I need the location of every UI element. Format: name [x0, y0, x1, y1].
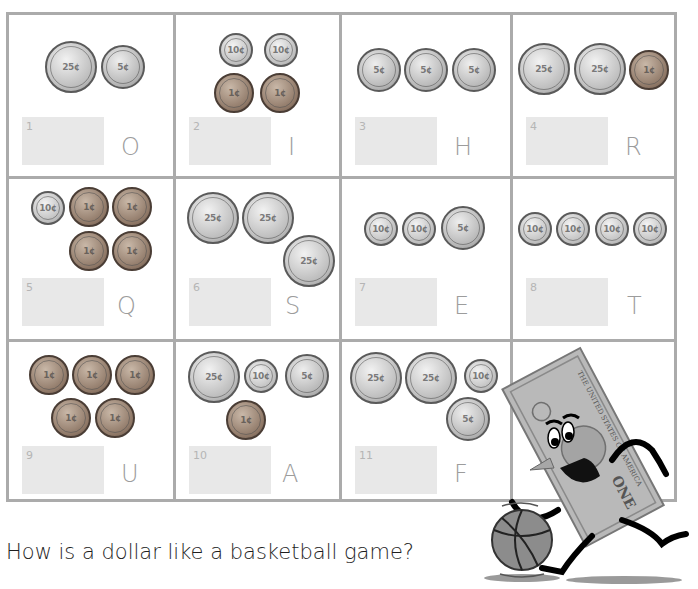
answer-box-3[interactable]: 3: [355, 117, 437, 165]
code-letter-2: I: [288, 133, 295, 161]
riddle-question: How is a dollar like a basketball game?: [6, 540, 414, 564]
answer-box-1[interactable]: 1: [22, 117, 104, 165]
penny-coin-icon: 1¢: [69, 231, 109, 271]
nickel-coin-icon: 5¢: [452, 48, 496, 92]
dime-coin-icon: 10¢: [364, 212, 398, 246]
dime-coin-icon: 10¢: [244, 359, 278, 393]
penny-coin-icon: 1¢: [112, 187, 152, 227]
code-letter-1: O: [121, 133, 140, 161]
dime-coin-icon: 10¢: [595, 212, 629, 246]
puzzle-cell-1: 25¢ 5¢ 1 O: [9, 15, 176, 179]
puzzle-cell-5: 10¢ 1¢ 1¢ 1¢ 1¢ 5 Q: [9, 179, 176, 342]
dime-coin-icon: 10¢: [556, 212, 590, 246]
penny-coin-icon: 1¢: [69, 187, 109, 227]
dime-coin-icon: 10¢: [402, 212, 436, 246]
penny-coin-icon: 1¢: [112, 231, 152, 271]
body-shadow: [566, 576, 682, 584]
answer-box-2[interactable]: 2: [189, 117, 271, 165]
dime-coin-icon: 10¢: [633, 212, 667, 246]
penny-coin-icon: 1¢: [51, 398, 91, 438]
nickel-coin-icon: 5¢: [404, 48, 448, 92]
penny-coin-icon: 1¢: [214, 73, 254, 113]
answer-box-10[interactable]: 10: [189, 446, 271, 494]
dime-coin-icon: 10¢: [264, 33, 298, 67]
puzzle-cell-4: 25¢ 25¢ 1¢ 4 R: [513, 15, 674, 179]
answer-box-4[interactable]: 4: [526, 117, 608, 165]
quarter-coin-icon: 25¢: [188, 351, 240, 403]
code-letter-9: U: [121, 460, 139, 488]
penny-coin-icon: 1¢: [629, 50, 669, 90]
answer-box-9[interactable]: 9: [22, 446, 104, 494]
puzzle-cell-3: 5¢ 5¢ 5¢ 3 H: [342, 15, 513, 179]
dime-coin-icon: 10¢: [518, 212, 552, 246]
code-letter-10: A: [282, 460, 298, 488]
penny-coin-icon: 1¢: [72, 355, 112, 395]
nickel-coin-icon: 5¢: [101, 45, 145, 89]
quarter-coin-icon: 25¢: [405, 352, 457, 404]
dime-coin-icon: 10¢: [31, 191, 65, 225]
answer-box-7[interactable]: 7: [355, 278, 437, 326]
code-letter-5: Q: [117, 292, 136, 320]
answer-box-5[interactable]: 5: [22, 278, 104, 326]
code-letter-7: E: [454, 292, 469, 320]
code-letter-4: R: [625, 133, 642, 161]
puzzle-cell-9: 1¢ 1¢ 1¢ 1¢ 1¢ 9 U: [9, 342, 176, 499]
nickel-coin-icon: 5¢: [285, 354, 329, 398]
penny-coin-icon: 1¢: [95, 398, 135, 438]
penny-coin-icon: 1¢: [260, 73, 300, 113]
puzzle-cell-7: 10¢ 10¢ 5¢ 7 E: [342, 179, 513, 342]
code-letter-8: T: [627, 292, 642, 320]
nickel-coin-icon: 5¢: [357, 48, 401, 92]
answer-box-11[interactable]: 11: [355, 446, 437, 494]
ball-shadow: [484, 574, 560, 582]
code-letter-6: S: [285, 292, 300, 320]
quarter-coin-icon: 25¢: [45, 41, 97, 93]
puzzle-cell-10: 25¢ 10¢ 5¢ 1¢ 10 A: [176, 342, 342, 499]
quarter-coin-icon: 25¢: [187, 192, 239, 244]
puzzle-cell-2: 10¢ 10¢ 1¢ 1¢ 2 I: [176, 15, 342, 179]
puzzle-cell-8: 10¢ 10¢ 10¢ 10¢ 8 T: [513, 179, 674, 342]
puzzle-cell-6: 25¢ 25¢ 25¢ 6 S: [176, 179, 342, 342]
penny-coin-icon: 1¢: [115, 355, 155, 395]
quarter-coin-icon: 25¢: [242, 192, 294, 244]
quarter-coin-icon: 25¢: [518, 43, 570, 95]
code-letter-3: H: [454, 133, 472, 161]
penny-coin-icon: 1¢: [226, 400, 266, 440]
answer-box-6[interactable]: 6: [189, 278, 271, 326]
answer-box-8[interactable]: 8: [526, 278, 608, 326]
dollar-bill-mascot-illustration: THE UNITED STATES OF AMERICA ONE: [462, 340, 698, 589]
penny-coin-icon: 1¢: [29, 355, 69, 395]
nickel-coin-icon: 5¢: [441, 206, 485, 250]
quarter-coin-icon: 25¢: [350, 352, 402, 404]
quarter-coin-icon: 25¢: [283, 235, 335, 287]
quarter-coin-icon: 25¢: [574, 43, 626, 95]
dime-coin-icon: 10¢: [219, 33, 253, 67]
